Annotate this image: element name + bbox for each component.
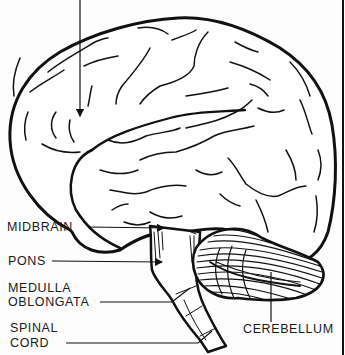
frame-edge <box>342 0 344 355</box>
label-medulla-line2: OBLONGATA <box>8 295 89 310</box>
label-medulla-line1: MEDULLA <box>8 281 71 296</box>
label-midbrain: MIDBRAIN <box>7 220 73 235</box>
label-spinal-line1: SPINAL <box>10 321 58 336</box>
brain-diagram: MIDBRAIN PONS MEDULLA OBLONGATA SPINAL C… <box>0 0 345 355</box>
label-cerebellum: CEREBELLUM <box>243 322 334 337</box>
pons-arrow <box>52 261 162 262</box>
label-pons: PONS <box>8 254 46 269</box>
spinal-cord-leader <box>66 331 212 343</box>
label-spinal-line2: CORD <box>10 336 49 351</box>
